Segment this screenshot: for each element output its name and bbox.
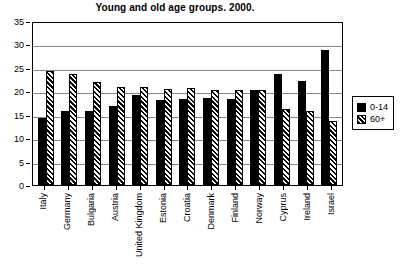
- legend-item-old: 60+: [357, 114, 388, 124]
- y-tick-mark: [26, 186, 30, 187]
- y-tick-mark: [26, 22, 30, 23]
- x-tick-mark: [44, 186, 45, 190]
- x-tick-label: Germany: [63, 193, 72, 230]
- x-tick-mark: [211, 186, 212, 190]
- bar-old: [306, 111, 314, 185]
- bar-group: [128, 23, 152, 185]
- x-tick-label: Denmark: [207, 193, 216, 230]
- x-tick-mark: [187, 186, 188, 190]
- x-tick-label: Bulgaria: [87, 193, 96, 226]
- x-tick-mark: [283, 186, 284, 190]
- x-tick-label: Austria: [111, 193, 120, 221]
- bar-chart: Young and old age groups. 2000. 05101520…: [0, 0, 405, 277]
- y-tick-label: 25: [14, 64, 24, 74]
- bar-young: [298, 81, 306, 185]
- x-tick-label: Croatia: [183, 193, 192, 222]
- bar-young: [250, 90, 258, 185]
- y-tick-mark: [26, 45, 30, 46]
- bar-young: [109, 106, 117, 185]
- x-tick-label: Finland: [231, 193, 240, 223]
- bar-young: [227, 99, 235, 185]
- y-tick-label: 35: [14, 17, 24, 27]
- x-category: Denmark: [199, 186, 223, 276]
- legend-item-young: 0-14: [357, 102, 388, 112]
- y-tick-label: 5: [19, 158, 24, 168]
- x-tick-label: Estonia: [159, 193, 168, 223]
- bar-group: [270, 23, 294, 185]
- y-tick-mark: [26, 139, 30, 140]
- bar-group: [199, 23, 223, 185]
- x-category: Estonia: [152, 186, 176, 276]
- x-tick-mark: [140, 186, 141, 190]
- bar-group: [223, 23, 247, 185]
- x-category: United Kingdom: [128, 186, 152, 276]
- x-tick-label: Cyprus: [279, 193, 288, 222]
- bar-group: [34, 23, 58, 185]
- bar-old: [140, 87, 148, 185]
- y-axis: 05101520253035: [0, 22, 30, 186]
- bar-old: [329, 121, 337, 185]
- bar-old: [93, 82, 101, 185]
- bar-young: [85, 111, 93, 186]
- y-tick-mark: [26, 163, 30, 164]
- x-tick-mark: [68, 186, 69, 190]
- x-axis: ItalyGermanyBulgariaAustriaUnited Kingdo…: [32, 186, 343, 276]
- bar-groups: [33, 23, 342, 185]
- x-category: Norway: [247, 186, 271, 276]
- x-tick-label: Israel: [327, 193, 336, 215]
- bar-group: [176, 23, 200, 185]
- bar-young: [274, 74, 282, 185]
- bar-young: [132, 95, 140, 185]
- x-tick-label: Norway: [255, 193, 264, 224]
- bar-group: [294, 23, 318, 185]
- x-tick-label: Ireland: [303, 193, 312, 221]
- bar-old: [46, 71, 54, 185]
- x-tick-mark: [307, 186, 308, 190]
- y-tick-mark: [26, 69, 30, 70]
- x-tick-mark: [235, 186, 236, 190]
- y-tick-label: 0: [19, 181, 24, 191]
- x-tick-mark: [331, 186, 332, 190]
- bar-group: [105, 23, 129, 185]
- bar-young: [38, 118, 46, 185]
- plot-area: [32, 22, 343, 186]
- x-tick-mark: [116, 186, 117, 190]
- x-tick-mark: [259, 186, 260, 190]
- x-category: Austria: [104, 186, 128, 276]
- bar-old: [258, 90, 266, 185]
- legend-label-young: 0-14: [370, 102, 388, 112]
- legend-label-old: 60+: [370, 114, 385, 124]
- bar-group: [58, 23, 82, 185]
- x-category: Croatia: [176, 186, 200, 276]
- y-tick-label: 20: [14, 87, 24, 97]
- bar-old: [235, 90, 243, 185]
- x-tick-label: United Kingdom: [135, 193, 144, 257]
- bar-old: [69, 74, 77, 185]
- y-tick-label: 30: [14, 40, 24, 50]
- bar-group: [152, 23, 176, 185]
- x-category: Cyprus: [271, 186, 295, 276]
- legend-swatch-old-icon: [357, 115, 366, 124]
- bar-group: [317, 23, 341, 185]
- bar-old: [164, 89, 172, 185]
- x-category: Bulgaria: [80, 186, 104, 276]
- y-tick-label: 15: [14, 111, 24, 121]
- bar-young: [156, 100, 164, 185]
- x-category: Finland: [223, 186, 247, 276]
- x-category: Israel: [319, 186, 343, 276]
- bar-group: [81, 23, 105, 185]
- chart-legend: 0-14 60+: [352, 96, 394, 130]
- x-tick-mark: [164, 186, 165, 190]
- bar-young: [61, 111, 69, 185]
- x-tick-label: Italy: [39, 193, 48, 210]
- bar-group: [246, 23, 270, 185]
- x-category: Germany: [56, 186, 80, 276]
- x-category: Ireland: [295, 186, 319, 276]
- legend-swatch-young-icon: [357, 103, 366, 112]
- bar-young: [179, 99, 187, 185]
- bar-young: [203, 98, 211, 185]
- y-tick-mark: [26, 116, 30, 117]
- y-tick-mark: [26, 92, 30, 93]
- y-tick-label: 10: [14, 134, 24, 144]
- bar-old: [187, 88, 195, 185]
